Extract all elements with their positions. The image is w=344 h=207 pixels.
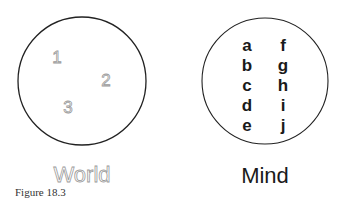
world-item-1: 1 xyxy=(52,48,61,67)
figure-caption: Figure 18.3 xyxy=(15,186,66,198)
mind-letter-f: f xyxy=(280,36,286,55)
mind-letter-b: b xyxy=(242,56,252,75)
mind-letter-j: j xyxy=(280,116,286,135)
world-label: World xyxy=(53,162,110,187)
mind-circle xyxy=(202,18,328,144)
mind-letter-c: c xyxy=(242,76,251,95)
mind-letter-e: e xyxy=(242,116,251,135)
mind-label: Mind xyxy=(241,163,289,188)
mind-letter-h: h xyxy=(278,76,288,95)
world-circle xyxy=(18,17,146,145)
world-group: 1 2 3 World xyxy=(18,17,146,187)
mind-group: a b c d e f g h i j Mind xyxy=(202,18,328,188)
world-item-2: 2 xyxy=(101,71,110,90)
figure-canvas: 1 2 3 World a b c d e f g h i j Mind xyxy=(0,0,344,207)
mind-letter-a: a xyxy=(242,36,252,55)
mind-letter-i: i xyxy=(281,96,286,115)
world-item-3: 3 xyxy=(63,98,72,117)
mind-letter-g: g xyxy=(278,56,288,75)
mind-letter-d: d xyxy=(242,96,252,115)
